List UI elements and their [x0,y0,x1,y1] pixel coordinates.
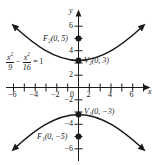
y-tick-label-2: 2 [69,71,73,79]
point-label-v2: V₂(0, 3) [84,57,109,65]
equation-operator: − [16,58,21,66]
y-tick-label-minus2: −2 [65,96,74,104]
equation-second-fraction: x2 16 [22,52,32,72]
x-tick-label-minus6: −6 [8,91,17,99]
equation-equals-sign: = [33,58,38,66]
hyperbola-equation: x2 9 − x2 16 = 1 [6,52,43,72]
point-label-f1: F₁(0, −5) [37,133,67,141]
equation-num1-exponent: 2 [11,51,14,57]
y-axis-label: y [69,7,73,15]
point-label-v1: V₁(0, −3) [84,108,114,116]
equation-first-fraction: x2 9 [6,52,14,72]
equation-den1: 9 [7,63,13,72]
y-tick-label-minus4: −4 [65,120,74,128]
x-tick-label-4: 4 [108,91,112,99]
equation-num2-exponent: 2 [27,51,30,57]
x-tick-label-minus4: −4 [30,91,39,99]
x-tick-label-6: 6 [130,91,134,99]
point-label-f2: F₂(0, 5) [43,35,68,43]
x-tick-label-minus2: −2 [51,91,60,99]
point-marker-f2 [76,36,82,42]
graph-canvas [0,0,157,165]
point-marker-v1 [76,112,82,118]
point-marker-f1 [76,134,82,140]
equation-right-hand-side: 1 [39,58,43,66]
y-tick-label-6: 6 [69,22,73,30]
y-tick-label-4: 4 [69,47,73,55]
hyperbola-graph-figure: y x −6 −4 −2 0 2 4 6 6 4 2 −2 −4 −6 F₂(0… [0,0,157,165]
equation-den2: 16 [22,63,32,72]
x-tick-label-2: 2 [87,91,91,99]
x-axis-label: x [148,88,152,96]
y-tick-label-minus6: −6 [65,145,74,153]
point-marker-v2 [76,58,82,64]
